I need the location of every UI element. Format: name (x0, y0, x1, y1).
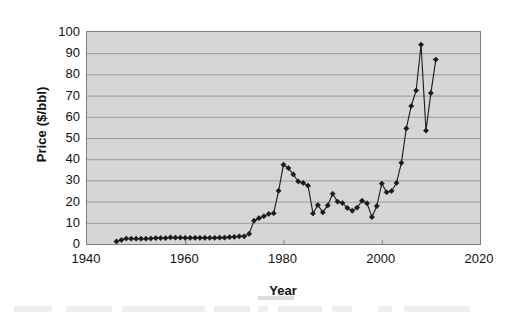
data-point-marker (379, 181, 384, 186)
data-point-marker (364, 201, 369, 206)
data-point-marker (232, 234, 237, 239)
x-tick-label: 1940 (56, 252, 116, 265)
y-tick-label: 0 (38, 237, 80, 250)
scan-noise-strip (0, 306, 517, 312)
oil-price-chart-figure: Price ($/bbl) 0102030405060708090100 194… (0, 0, 517, 320)
x-axis-tick-labels: 19401960198020002020 (0, 252, 517, 272)
data-point-marker (271, 211, 276, 216)
plot-svg (87, 32, 480, 244)
data-point-marker (237, 234, 242, 239)
y-tick-label: 70 (38, 89, 80, 102)
data-point-marker (418, 42, 423, 47)
y-tick-label: 50 (38, 131, 80, 144)
data-point-marker (168, 235, 173, 240)
data-point-marker (384, 190, 389, 195)
x-tick-label: 1980 (253, 252, 313, 265)
data-point-marker (428, 90, 433, 95)
data-point-marker (423, 128, 428, 133)
data-point-marker (222, 235, 227, 240)
y-axis-tick-labels: 0102030405060708090100 (38, 0, 80, 320)
data-point-marker (119, 237, 124, 242)
data-point-marker (212, 235, 217, 240)
data-point-marker (399, 160, 404, 165)
data-point-marker (310, 211, 315, 216)
data-point-marker (197, 235, 202, 240)
data-point-marker (330, 191, 335, 196)
y-tick-label: 60 (38, 110, 80, 123)
data-point-marker (276, 188, 281, 193)
x-tick-label: 1960 (154, 252, 214, 265)
data-point-marker (124, 236, 129, 241)
data-point-marker (404, 126, 409, 131)
data-point-marker (173, 235, 178, 240)
data-point-marker (178, 235, 183, 240)
data-point-marker (256, 216, 261, 221)
y-tick-label: 10 (38, 216, 80, 229)
data-point-marker (251, 218, 256, 223)
data-point-marker (305, 183, 310, 188)
data-point-marker (158, 235, 163, 240)
y-tick-label: 40 (38, 152, 80, 165)
data-point-marker (433, 57, 438, 62)
data-point-marker (114, 239, 119, 244)
data-point-marker (134, 236, 139, 241)
y-tick-label: 80 (38, 67, 80, 80)
data-point-marker (143, 236, 148, 241)
data-point-marker (374, 203, 379, 208)
data-point-marker (266, 211, 271, 216)
data-point-marker (188, 235, 193, 240)
data-point-marker (242, 234, 247, 239)
y-tick-label: 90 (38, 46, 80, 59)
data-point-marker (247, 231, 252, 236)
data-point-marker (335, 199, 340, 204)
x-tick-label: 2020 (449, 252, 509, 265)
data-point-marker (129, 236, 134, 241)
plot-area (86, 31, 481, 245)
y-tick-label: 30 (38, 173, 80, 186)
x-tick-label: 2000 (351, 252, 411, 265)
data-point-marker (261, 214, 266, 219)
scan-noise-mark (258, 296, 294, 300)
data-point-marker (409, 103, 414, 108)
data-point-marker (153, 235, 158, 240)
data-point-marker (207, 235, 212, 240)
data-point-marker (148, 236, 153, 241)
series-line-crude-oil-price (116, 45, 435, 242)
data-point-marker (163, 235, 168, 240)
y-tick-label: 20 (38, 195, 80, 208)
data-point-marker (192, 235, 197, 240)
data-point-marker (369, 214, 374, 219)
data-point-marker (227, 235, 232, 240)
data-point-marker (389, 188, 394, 193)
data-point-marker (138, 236, 143, 241)
data-point-marker (202, 235, 207, 240)
data-point-marker (183, 235, 188, 240)
data-point-marker (217, 235, 222, 240)
y-tick-label: 100 (38, 25, 80, 38)
data-point-marker (414, 88, 419, 93)
series-markers (114, 42, 439, 244)
